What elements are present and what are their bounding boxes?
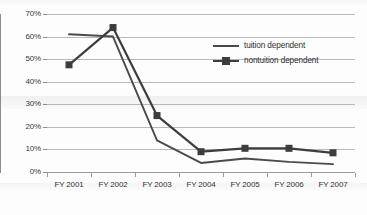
- legend-label: tuition dependent: [244, 41, 305, 50]
- data-point-marker: [242, 145, 249, 152]
- chart-legend: tuition dependentnontuition dependent: [213, 38, 345, 68]
- legend-item-nontuition-dependent[interactable]: nontuition dependent: [213, 53, 345, 68]
- legend-swatch-icon: [213, 55, 239, 67]
- data-point-marker: [110, 24, 117, 31]
- data-point-marker: [198, 148, 205, 155]
- legend-item-tuition-dependent[interactable]: tuition dependent: [213, 38, 345, 53]
- data-point-marker: [286, 145, 293, 152]
- data-point-marker: [66, 61, 73, 68]
- data-point-marker: [330, 149, 337, 156]
- legend-swatch-icon: [213, 40, 239, 52]
- data-point-marker: [154, 112, 161, 119]
- legend-label: nontuition dependent: [244, 56, 319, 65]
- series-layer: [0, 0, 367, 215]
- line-chart: 0%10%20%30%40%50%60%70% FY 2001FY 2002FY…: [0, 0, 367, 215]
